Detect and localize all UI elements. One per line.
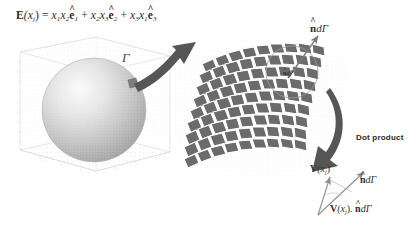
ndgamma-top-hat: ^ xyxy=(310,16,316,26)
dot-result-rest: dΓ xyxy=(361,203,372,214)
gamma-label: Γ xyxy=(122,50,129,66)
v-label-close: ) xyxy=(327,163,330,174)
normal-dgamma-label-circle: ^ndΓ xyxy=(283,69,293,76)
dot-result-arg: (x xyxy=(337,203,345,214)
vector-field-label: V(xj) xyxy=(310,163,330,175)
normal-dgamma-label-top: ^ndΓ xyxy=(310,22,328,34)
dot-result-hat: ^ xyxy=(355,198,361,208)
ndgamma-circle-hat: ^ xyxy=(283,66,286,72)
v-label-arg: (x xyxy=(317,163,325,174)
ndgamma-right-hat: ^ xyxy=(360,169,366,179)
surface-mesh-diagram xyxy=(0,0,419,231)
dot-result-close: ). xyxy=(347,203,353,214)
ndgamma-top-rest: dΓ xyxy=(316,22,328,34)
ndgamma-circle-rest: dΓ xyxy=(286,69,293,76)
dot-product-result-label: V(xj). ^ndΓ xyxy=(330,203,371,215)
ndgamma-right-rest: dΓ xyxy=(366,174,377,185)
dot-product-label: Dot product xyxy=(356,133,404,142)
normal-dgamma-label-right: ^ndΓ xyxy=(360,174,376,185)
